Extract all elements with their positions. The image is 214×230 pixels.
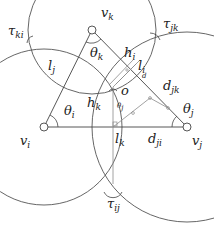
angle-arc-j xyxy=(172,116,177,127)
label-tau-jk: τjk xyxy=(163,16,178,33)
marker-dot-4 xyxy=(126,69,128,71)
label-tau-ki: τki xyxy=(8,23,24,40)
label-d-small: d xyxy=(142,72,147,80)
label-theta-j-small: θj xyxy=(117,102,124,112)
label-h-i: hi xyxy=(124,45,135,62)
label-tau-ij: τij xyxy=(107,196,120,213)
label-theta-i: θi xyxy=(64,103,75,120)
label-d-jk: djk xyxy=(163,78,180,95)
circle-packing-diagram: vi vj vk θi θj θk θj li lj lk hi hk djk … xyxy=(0,0,214,230)
label-l-j: lj xyxy=(48,58,55,75)
label-v-i: vi xyxy=(20,133,30,150)
label-theta-j: θj xyxy=(183,101,194,118)
perp-pair xyxy=(116,60,140,84)
vertex-j xyxy=(183,123,191,131)
angle-arc-i xyxy=(50,115,58,127)
angle-arc-k xyxy=(86,39,101,43)
perp-pair2 xyxy=(110,60,133,84)
label-o: o xyxy=(121,83,129,98)
label-v-k: vk xyxy=(101,5,114,22)
label-theta-k: θk xyxy=(90,45,103,62)
label-h-k: hk xyxy=(87,95,101,112)
label-l-k: lk xyxy=(115,131,125,148)
marker-dot-1 xyxy=(132,112,135,115)
label-d-ji: dji xyxy=(148,131,162,148)
vertex-i xyxy=(40,123,48,131)
perp-dj2 xyxy=(150,98,168,108)
label-v-j: vj xyxy=(192,133,202,150)
angle-arc-tau-ki xyxy=(27,36,33,43)
vertex-k xyxy=(88,26,96,34)
